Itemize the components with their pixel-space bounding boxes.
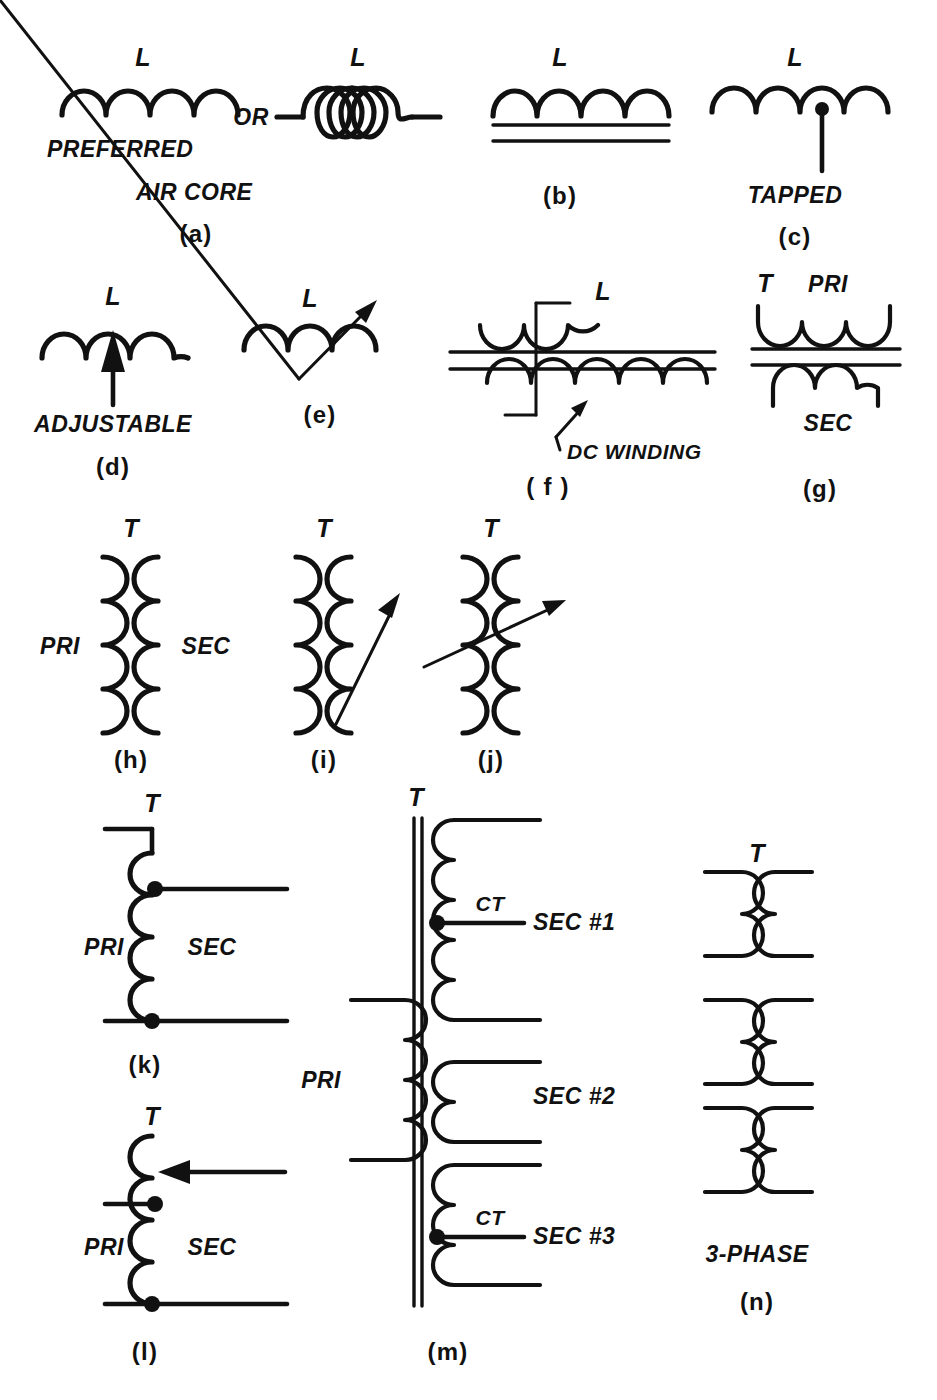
label-n-T: T xyxy=(749,839,767,867)
caption-h: (h) xyxy=(114,746,148,773)
schematic-text-layer: L OR L PREFERRED AIR CORE (a) L (b) L TA… xyxy=(0,0,937,1400)
label-b-L: L xyxy=(552,43,567,71)
label-m-T: T xyxy=(408,783,426,811)
label-k-sec: SEC xyxy=(188,934,237,960)
caption-m: (m) xyxy=(428,1338,469,1365)
label-m-ct1: CT xyxy=(476,892,507,915)
label-i-T: T xyxy=(316,514,334,542)
label-l-pri: PRI xyxy=(84,1234,124,1260)
label-l-T: T xyxy=(144,1102,162,1130)
caption-b: (b) xyxy=(543,182,577,209)
caption-l: (l) xyxy=(132,1338,158,1365)
label-k-pri: PRI xyxy=(84,934,124,960)
label-c-L: L xyxy=(787,43,802,71)
label-a-preferred: PREFERRED xyxy=(47,136,193,162)
caption-c: (c) xyxy=(779,223,812,250)
label-h-T: T xyxy=(123,514,141,542)
caption-n: (n) xyxy=(740,1288,774,1315)
label-f-dc-winding: DC WINDING xyxy=(567,440,702,463)
caption-a: (a) xyxy=(180,220,213,247)
label-h-sec: SEC xyxy=(182,633,231,659)
label-a-or: OR xyxy=(233,104,269,130)
label-c-tapped: TAPPED xyxy=(748,182,843,208)
label-m-sec1: SEC #1 xyxy=(533,909,615,935)
label-m-sec3: SEC #3 xyxy=(533,1223,615,1249)
label-m-ct3: CT xyxy=(476,1206,507,1229)
caption-g: (g) xyxy=(803,475,837,502)
label-g-sec: SEC xyxy=(804,410,853,436)
label-l-sec: SEC xyxy=(188,1234,237,1260)
label-g-pri: PRI xyxy=(808,271,848,297)
label-g-T: T xyxy=(757,269,775,297)
caption-k: (k) xyxy=(129,1051,162,1078)
schematic-symbols-figure: L OR L PREFERRED AIR CORE (a) L (b) L TA… xyxy=(0,0,937,1400)
label-n-3phase: 3-PHASE xyxy=(705,1241,808,1267)
caption-e: (e) xyxy=(304,401,337,428)
label-e-L: L xyxy=(302,284,317,312)
caption-f: ( f ) xyxy=(526,473,569,500)
label-j-T: T xyxy=(483,514,501,542)
caption-j: (j) xyxy=(478,746,504,773)
label-f-L: L xyxy=(595,277,610,305)
caption-i: (i) xyxy=(311,746,337,773)
label-a-L-right: L xyxy=(350,43,365,71)
label-a-L-left: L xyxy=(135,43,150,71)
label-m-pri: PRI xyxy=(301,1067,341,1093)
label-h-pri: PRI xyxy=(40,633,80,659)
label-d-L: L xyxy=(105,282,120,310)
label-k-T: T xyxy=(144,789,162,817)
label-a-air-core: AIR CORE xyxy=(135,179,253,205)
label-m-sec2: SEC #2 xyxy=(533,1083,615,1109)
label-d-adjustable: ADJUSTABLE xyxy=(33,411,192,437)
caption-d: (d) xyxy=(96,453,130,480)
